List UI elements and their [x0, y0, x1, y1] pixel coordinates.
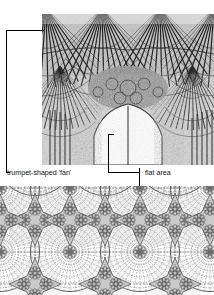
- annotation-label-flat-area: flat area: [145, 169, 171, 178]
- figure-fan-vaulting: trumpet-shaped 'fan' flat area: [0, 0, 214, 295]
- fan-vault-plan-drawing: [0, 186, 214, 295]
- leader-fan-stem: [6, 30, 7, 173]
- annotation-label-trumpet-shaped-fan: trumpet-shaped 'fan': [7, 169, 71, 178]
- leader-fan-top: [6, 30, 44, 31]
- fan-vault-ceiling-photograph: [42, 14, 214, 165]
- leader-flat-top: [108, 134, 114, 135]
- leader-flat-stem: [108, 134, 109, 173]
- leader-flat-base: [108, 172, 140, 173]
